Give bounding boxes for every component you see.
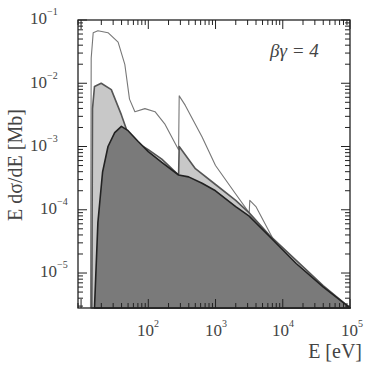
ytick-label-1e-1: 10−1 [30,8,58,29]
xtick-label-1e2: 102 [137,320,159,341]
y-axis-label: E dσ/dE [Mb] [4,109,27,221]
data-areas [91,31,351,308]
ytick-label-1e-2: 10−2 [30,72,58,93]
beta-gamma-annotation: βγ = 4 [270,40,319,62]
ytick-label-1e-5: 10−5 [40,261,68,282]
area-series-2 [95,126,351,308]
ytick-label-1e-4: 10−4 [40,198,68,219]
x-axis-label: E [eV] [308,340,362,363]
xtick-label-1e5: 105 [341,320,363,341]
xtick-label-1e4: 104 [272,320,294,341]
ytick-label-1e-3: 10−3 [30,135,58,156]
xtick-label-1e3: 103 [205,320,227,341]
